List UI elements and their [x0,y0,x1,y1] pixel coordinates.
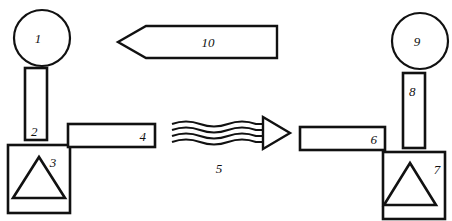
label-3: 3 [49,155,57,170]
component-5-arrowhead [263,117,290,149]
component-5-wavy-lines [172,122,264,145]
label-5: 5 [216,161,223,176]
label-8: 8 [409,84,416,99]
diagram-canvas: 1 2 3 4 5 6 7 8 9 10 [0,0,452,221]
label-10: 10 [202,35,216,50]
label-4: 4 [140,129,147,144]
component-10-block-arrow [118,26,277,58]
label-7: 7 [434,162,441,177]
label-2: 2 [31,124,38,139]
label-1: 1 [35,31,42,46]
label-6: 6 [371,132,378,147]
technical-diagram: 1 2 3 4 5 6 7 8 9 10 [0,0,452,221]
label-9: 9 [414,34,421,49]
component-1-circle [14,10,70,66]
